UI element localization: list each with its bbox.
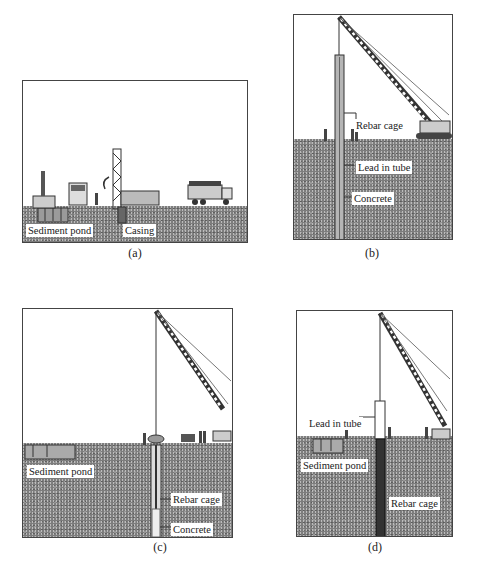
panel-b: Rebar cage Lead in tube Concrete [293,14,453,240]
label-rebar-cage: Rebar cage [389,497,440,510]
panel-a: Sediment pond Casing [22,80,248,243]
equipment-illustration [23,81,248,243]
caption-d: (d) [355,540,395,555]
panel-c: Sediment pond Rebar cage Concrete [22,308,233,538]
label-rebar-cage: Rebar cage [171,493,222,506]
caption-a: (a) [115,246,155,261]
label-sediment-pond: Sediment pond [26,224,93,237]
label-lead-in-tube: Lead in tube [307,417,363,430]
label-lead-in-tube: Lead in tube [356,161,412,174]
label-concrete: Concrete [171,523,213,536]
casing [118,207,126,223]
label-sediment-pond: Sediment pond [27,465,94,478]
label-concrete: Concrete [352,192,394,205]
label-sediment-pond: Sediment pond [301,459,368,472]
panel-d: Lead in tube Sediment pond Rebar cage [296,310,453,537]
label-rebar-cage: Rebar cage [354,119,405,132]
caption-b: (b) [352,246,392,261]
caption-c: (c) [140,540,180,555]
label-casing: Casing [123,224,156,237]
